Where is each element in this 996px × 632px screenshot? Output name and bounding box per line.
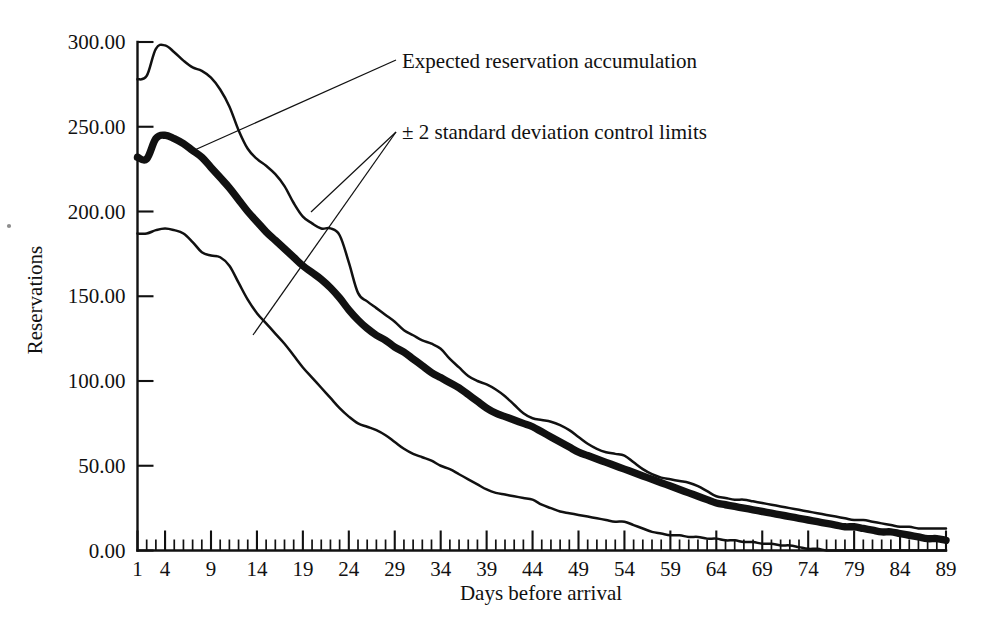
y-tick-label: 50.00 [78,454,125,478]
y-tick-label: 100.00 [68,369,126,393]
x-tick-label: 4 [160,557,171,581]
x-tick-label: 14 [246,557,268,581]
y-tick-label: 0.00 [89,539,126,563]
annotation-control-limits: ± 2 standard deviation control limits [402,120,707,144]
chart-background [0,0,996,632]
chart-figure: 0.0050.00100.00150.00200.00250.00300.00 … [0,0,996,632]
scan-speck [7,224,11,228]
x-tick-label: 54 [614,557,636,581]
reservation-accumulation-chart: 0.0050.00100.00150.00200.00250.00300.00 … [0,0,996,632]
y-tick-label: 200.00 [68,200,126,224]
x-tick-label: 1 [132,557,143,581]
x-tick-label: 34 [430,557,452,581]
x-tick-label: 79 [844,557,865,581]
y-tick-label: 150.00 [68,284,126,308]
x-tick-label: 29 [384,557,405,581]
x-axis-title: Days before arrival [460,581,622,605]
x-tick-label: 19 [292,557,313,581]
y-tick-label: 300.00 [68,30,126,54]
x-tick-label: 24 [338,557,360,581]
x-tick-label: 59 [660,557,681,581]
x-tick-label: 49 [568,557,589,581]
x-tick-label: 44 [522,557,544,581]
x-tick-label: 9 [206,557,217,581]
x-tick-label: 84 [890,557,912,581]
y-tick-label: 250.00 [68,115,126,139]
x-tick-label: 89 [936,557,957,581]
x-tick-label: 74 [798,557,820,581]
x-tick-label: 39 [476,557,497,581]
annotation-expected-accumulation: Expected reservation accumulation [402,49,698,73]
x-tick-label: 64 [706,557,728,581]
x-tick-label: 69 [752,557,773,581]
y-axis-title: Reservations [23,246,47,354]
